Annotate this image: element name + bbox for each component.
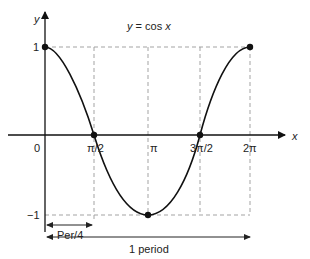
tick-three-pi-half: 3π/2 [190,142,213,154]
tick-y-one: 1 [33,41,39,53]
tick-two-pi: 2π [243,142,257,154]
chart-title: y = cos x [126,20,171,32]
cosine-chart: y = cos x y x 0 π/2 π 3π/2 2π 1 −1 Per/4… [0,0,310,259]
quarter-period-label: Per/4 [57,229,83,241]
tick-pi: π [150,142,158,154]
one-period-label: 1 period [129,243,169,255]
tick-pi-half: π/2 [87,142,104,154]
origin-label: 0 [34,142,40,154]
y-axis-label: y [33,13,41,25]
marked-points [42,44,253,218]
cosine-curve [45,47,250,215]
x-axis-label: x [291,130,298,142]
tick-y-neg-one: −1 [27,209,40,221]
